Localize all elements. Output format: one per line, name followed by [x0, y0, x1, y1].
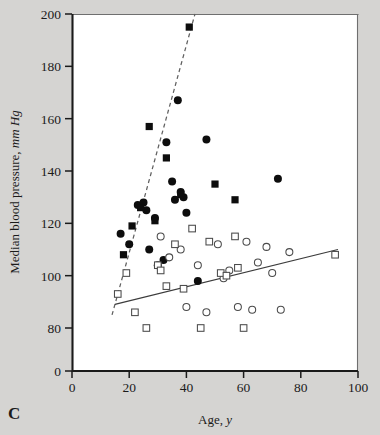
y-tick-label: 180 [41, 59, 62, 74]
x-tick-label: 20 [122, 380, 136, 395]
marker-open-circle [254, 259, 261, 266]
marker-filled-square [146, 123, 153, 130]
marker-open-square [232, 233, 239, 240]
marker-open-circle [214, 241, 221, 248]
marker-filled-square [231, 196, 238, 203]
marker-open-circle [249, 306, 256, 313]
marker-open-circle [157, 233, 164, 240]
marker-open-circle [243, 238, 250, 245]
y-tick-label: 120 [41, 216, 62, 231]
marker-open-square [180, 285, 187, 292]
marker-filled-square [186, 23, 193, 30]
marker-open-circle [277, 306, 284, 313]
y-tick-label: 0 [54, 364, 61, 379]
marker-filled-square [128, 222, 135, 229]
marker-filled-circle [182, 209, 190, 217]
marker-open-circle [263, 243, 270, 250]
marker-open-square [223, 272, 230, 279]
marker-open-square [157, 267, 164, 274]
x-tick-label: 60 [237, 380, 251, 395]
marker-filled-square [151, 217, 158, 224]
marker-filled-circle [274, 175, 282, 183]
marker-filled-square [163, 154, 170, 161]
x-tick-label: 40 [180, 380, 194, 395]
scatter-plot: 080100120140160180200020406080100 Age, y… [0, 0, 380, 435]
marker-open-circle [203, 309, 210, 316]
y-axis-label: Median blood pressure, mm Hg [7, 110, 22, 274]
marker-filled-square [137, 204, 144, 211]
y-tick-label: 200 [41, 7, 62, 22]
marker-filled-circle [117, 230, 125, 238]
x-tick-label: 100 [348, 380, 369, 395]
marker-filled-circle [162, 138, 170, 146]
marker-filled-square [120, 251, 127, 258]
panel-label: C [8, 404, 20, 423]
marker-filled-circle [194, 277, 202, 285]
marker-filled-square [211, 180, 218, 187]
marker-open-square [235, 265, 242, 272]
marker-open-circle [183, 304, 190, 311]
marker-open-square [163, 283, 170, 290]
marker-open-circle [194, 262, 201, 269]
marker-open-square [123, 270, 130, 277]
marker-open-square [114, 291, 121, 298]
marker-filled-square [177, 191, 184, 198]
marker-open-square [143, 325, 150, 332]
marker-filled-circle [168, 177, 176, 185]
marker-filled-circle [145, 246, 153, 254]
marker-open-circle [286, 249, 293, 256]
y-tick-label: 80 [48, 321, 62, 336]
x-axis-label: Age, y [198, 412, 232, 427]
y-tick-label: 140 [41, 164, 62, 179]
marker-open-square [206, 238, 213, 245]
marker-open-square [332, 251, 339, 258]
marker-filled-circle [174, 96, 182, 104]
marker-open-square [132, 309, 139, 316]
marker-open-circle [234, 304, 241, 311]
x-tick-label: 0 [69, 380, 76, 395]
marker-open-square [189, 225, 196, 232]
marker-open-circle [269, 270, 276, 277]
marker-open-square [240, 325, 247, 332]
x-tick-label: 80 [294, 380, 308, 395]
figure-panel: 080100120140160180200020406080100 Age, y… [0, 0, 380, 435]
y-tick-label: 160 [41, 112, 62, 127]
plot-background [72, 14, 358, 371]
marker-filled-circle [125, 240, 133, 248]
marker-open-square [197, 325, 204, 332]
y-tick-label: 100 [41, 269, 62, 284]
marker-open-circle [166, 254, 173, 261]
marker-filled-circle [202, 136, 210, 144]
marker-open-square [172, 241, 179, 248]
